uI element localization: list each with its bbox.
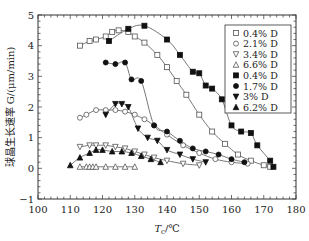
data-point bbox=[196, 163, 202, 169]
x-tick-label: 160 bbox=[222, 204, 241, 215]
data-point bbox=[165, 129, 170, 134]
legend-marker-icon bbox=[234, 31, 239, 36]
data-point bbox=[197, 151, 202, 156]
data-point bbox=[261, 163, 266, 168]
data-point bbox=[113, 62, 118, 67]
data-point bbox=[142, 117, 147, 122]
data-point bbox=[235, 152, 240, 157]
chart: 100110120130140150160170180−1012345Tc/℃球… bbox=[0, 0, 309, 241]
legend-entry: 6.6% D bbox=[243, 59, 278, 70]
legend-entry: 6.2% D bbox=[243, 102, 278, 113]
legend-entry: 2.1% D bbox=[243, 38, 278, 49]
legend-marker-icon bbox=[234, 84, 239, 89]
legend-entry: 3.4% D bbox=[243, 49, 278, 60]
data-point bbox=[197, 112, 202, 117]
data-point bbox=[110, 29, 115, 34]
data-point bbox=[103, 60, 108, 65]
data-point bbox=[142, 40, 147, 45]
data-point bbox=[203, 149, 208, 154]
data-point bbox=[165, 37, 170, 42]
data-point bbox=[190, 69, 195, 74]
data-point bbox=[177, 52, 182, 57]
legend-entry: 0.4% D bbox=[243, 28, 278, 39]
data-point bbox=[177, 138, 182, 143]
x-tick-label: 150 bbox=[190, 204, 209, 215]
legend-marker-icon bbox=[234, 73, 239, 78]
data-point bbox=[177, 152, 183, 158]
data-point bbox=[67, 162, 73, 168]
data-point bbox=[197, 71, 202, 76]
x-tick-label: 110 bbox=[61, 204, 80, 215]
x-axis-title: Tc/℃ bbox=[154, 223, 179, 236]
data-point bbox=[94, 37, 99, 42]
y-tick-label: 4 bbox=[28, 40, 34, 51]
data-point bbox=[77, 144, 83, 150]
x-tick-label: 170 bbox=[254, 204, 273, 215]
data-point bbox=[106, 39, 111, 44]
data-point bbox=[113, 108, 118, 113]
legend: 0.4% D2.1% D3.4% D6.6% D0.4% D1.7% D3% D… bbox=[225, 25, 291, 113]
data-point bbox=[184, 92, 189, 97]
data-point bbox=[210, 129, 215, 134]
data-point bbox=[103, 112, 109, 118]
data-point bbox=[132, 112, 137, 117]
y-tick-label: 2 bbox=[28, 102, 34, 113]
data-point bbox=[210, 86, 215, 91]
data-point bbox=[164, 147, 170, 153]
data-point bbox=[77, 115, 82, 120]
data-point bbox=[213, 157, 218, 162]
data-point bbox=[94, 108, 99, 113]
data-point bbox=[271, 164, 276, 169]
x-tick-label: 140 bbox=[157, 204, 176, 215]
data-point bbox=[139, 78, 144, 83]
data-point bbox=[239, 129, 244, 134]
legend-marker-icon bbox=[234, 41, 239, 46]
data-point bbox=[219, 97, 224, 102]
data-point bbox=[77, 43, 82, 48]
data-point bbox=[84, 112, 89, 117]
data-point bbox=[229, 123, 234, 128]
data-point bbox=[174, 78, 179, 83]
data-point bbox=[132, 34, 137, 39]
data-point bbox=[87, 39, 92, 44]
x-tick-label: 130 bbox=[125, 204, 144, 215]
data-point bbox=[155, 52, 160, 57]
data-point bbox=[126, 26, 131, 31]
data-point bbox=[165, 65, 170, 70]
data-point bbox=[223, 141, 228, 146]
data-point bbox=[242, 160, 247, 165]
x-tick-label: 100 bbox=[28, 204, 47, 215]
x-tick-label: 180 bbox=[286, 204, 305, 215]
legend-entry: 3% D bbox=[243, 91, 269, 102]
data-point bbox=[145, 135, 151, 141]
data-point bbox=[203, 160, 209, 166]
data-point bbox=[116, 28, 121, 33]
legend-entry: 1.7% D bbox=[243, 81, 278, 92]
data-point bbox=[190, 146, 195, 151]
data-point bbox=[123, 60, 128, 65]
data-point bbox=[129, 77, 134, 82]
y-axis-title: 球晶生长速率 G/(μm/min) bbox=[4, 46, 16, 167]
data-point bbox=[181, 143, 186, 148]
y-tick-label: −1 bbox=[19, 194, 34, 205]
data-point bbox=[229, 157, 234, 162]
data-point bbox=[255, 143, 260, 148]
data-point bbox=[248, 131, 253, 136]
y-tick-label: 0 bbox=[28, 163, 34, 174]
y-tick-label: 3 bbox=[28, 71, 34, 82]
data-point bbox=[203, 83, 208, 88]
data-point bbox=[142, 23, 147, 28]
data-point bbox=[77, 155, 83, 161]
data-point bbox=[87, 150, 93, 156]
x-tick-label: 120 bbox=[93, 204, 112, 215]
legend-entry: 0.4% D bbox=[243, 70, 278, 81]
y-tick-label: 5 bbox=[28, 10, 34, 21]
data-point bbox=[123, 109, 128, 114]
y-tick-label: 1 bbox=[28, 132, 34, 143]
data-point bbox=[152, 123, 157, 128]
data-point bbox=[268, 158, 273, 163]
data-point bbox=[216, 152, 221, 157]
